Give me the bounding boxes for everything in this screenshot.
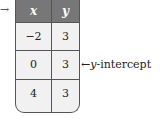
left-arrow-icon: ←: [81, 58, 90, 71]
xy-table: x y −2 3 0 3 4 3: [15, 0, 80, 113]
cell-y-1: 3: [52, 51, 79, 79]
header-y: y: [52, 0, 79, 22]
y-intercept-annotation: ←y-intercept: [81, 56, 151, 74]
pointer-arrow-icon: →: [0, 5, 9, 15]
cell-x-2: 4: [16, 80, 51, 108]
header-x: x: [16, 0, 51, 22]
annotation-text: -intercept: [96, 58, 151, 71]
cell-x-1: 0: [16, 51, 51, 79]
cell-y-2: 3: [52, 80, 79, 108]
cell-y-0: 3: [52, 23, 79, 51]
cell-x-0: −2: [16, 23, 51, 51]
